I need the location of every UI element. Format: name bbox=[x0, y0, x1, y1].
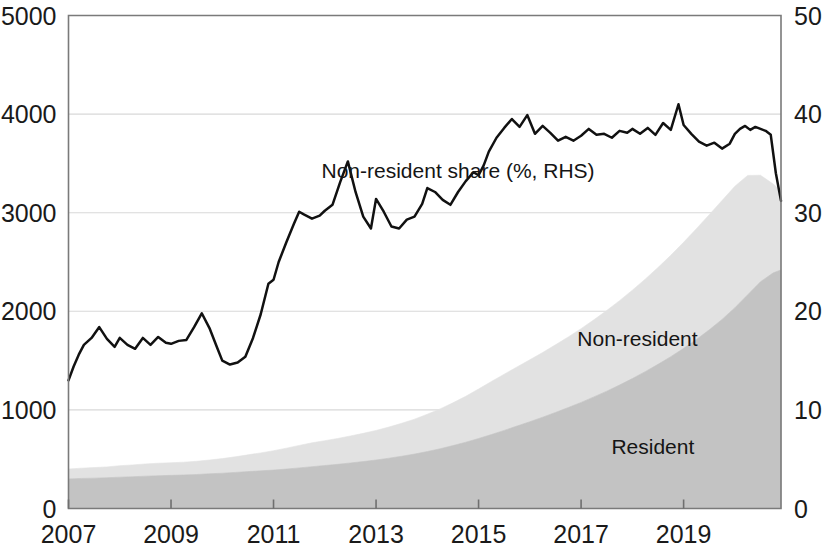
left-axis-tick-label: 4000 bbox=[1, 100, 57, 128]
right-axis-tick-label: 10 bbox=[794, 396, 822, 424]
left-axis-tick-label: 3000 bbox=[1, 199, 57, 227]
x-axis-tick-labels: 2007200920112013201520172019 bbox=[41, 520, 712, 548]
left-axis-tick-label: 0 bbox=[43, 495, 57, 523]
series-annotation-label: Non-resident bbox=[577, 327, 697, 350]
series-annotation-label: Resident bbox=[611, 435, 694, 458]
x-axis-tick-label: 2015 bbox=[451, 520, 507, 548]
right-axis-tick-label: 30 bbox=[794, 199, 822, 227]
left-axis-tick-labels: 010002000300040005000 bbox=[1, 2, 57, 523]
left-axis-tick-label: 2000 bbox=[1, 297, 57, 325]
right-axis-tick-label: 0 bbox=[794, 495, 808, 523]
x-axis-tick-label: 2011 bbox=[247, 520, 301, 548]
left-axis-tick-label: 5000 bbox=[1, 2, 57, 30]
stacked-area-with-line-chart: 010002000300040005000 01020304050 200720… bbox=[0, 0, 822, 550]
x-axis-tick-label: 2017 bbox=[553, 520, 609, 548]
right-axis-tick-label: 20 bbox=[794, 297, 822, 325]
chart-figure: 010002000300040005000 01020304050 200720… bbox=[0, 0, 822, 550]
right-axis-tick-label: 50 bbox=[794, 2, 822, 30]
x-axis-tick-label: 2007 bbox=[41, 520, 97, 548]
x-axis-tick-label: 2009 bbox=[143, 520, 199, 548]
right-axis-tick-label: 40 bbox=[794, 100, 822, 128]
series-annotation-label: Non-resident share (%, RHS) bbox=[322, 159, 595, 182]
left-axis-tick-label: 1000 bbox=[1, 396, 57, 424]
x-axis-tick-label: 2019 bbox=[656, 520, 712, 548]
x-axis-tick-label: 2013 bbox=[348, 520, 404, 548]
right-axis-tick-labels: 01020304050 bbox=[794, 2, 822, 523]
